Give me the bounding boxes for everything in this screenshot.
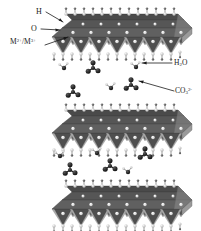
water-molecule <box>122 166 132 174</box>
water-molecule <box>130 61 140 69</box>
carbonate-ion <box>63 162 78 175</box>
interlayer-region-upper <box>58 60 140 97</box>
leader-line-hydrogen <box>46 12 63 22</box>
water-molecule <box>58 62 68 70</box>
carbonate-ion <box>86 60 101 73</box>
label-carbonate: CO32- <box>175 87 192 96</box>
label-hydrogen: H <box>36 8 42 16</box>
hydroxide-slab-top <box>52 7 192 60</box>
leader-line-carbonate <box>139 81 174 91</box>
ldh-structure-figure <box>0 0 201 231</box>
carbonate-ion <box>66 84 81 97</box>
label-water: H2O <box>174 59 187 68</box>
label-oxygen: O <box>31 25 37 33</box>
carbonate-ion <box>103 158 118 171</box>
carbonate-ion <box>138 146 153 159</box>
hydroxide-slab-middle <box>52 103 192 156</box>
water-molecule <box>105 82 115 90</box>
interlayer-region-lower <box>54 146 152 175</box>
hydroxide-slab-bottom <box>52 179 192 231</box>
carbonate-ion <box>124 77 139 90</box>
label-metal-cations: M2+/M3+ <box>10 38 36 46</box>
leader-line-water <box>142 61 172 64</box>
leader-line-oxygen <box>41 29 60 32</box>
